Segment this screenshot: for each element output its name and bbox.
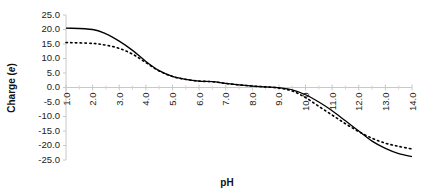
- y-tick-label: 5.0: [47, 67, 60, 78]
- x-tick-label: 5.0: [167, 93, 178, 106]
- x-tick-label: 1.0: [61, 93, 72, 106]
- y-axis: 25.020.015.010.05.00.0-5.0-10.0-15.0-20.…: [38, 9, 66, 165]
- y-tick-label: -25.0: [38, 154, 60, 165]
- y-tick-label: 10.0: [42, 52, 61, 63]
- x-tick-label: 13.0: [380, 93, 391, 112]
- y-axis-title-suffix: ): [6, 63, 17, 66]
- y-axis-title: Charge (e): [6, 63, 17, 112]
- x-tick-label: 8.0: [247, 93, 258, 106]
- x-tick-label: 2.0: [87, 93, 98, 106]
- y-tick-label: -10.0: [38, 110, 60, 121]
- y-tick-label: -15.0: [38, 125, 60, 136]
- series-layer: [66, 28, 412, 156]
- x-tick-label: 9.0: [273, 93, 284, 106]
- x-tick-label: 7.0: [220, 93, 231, 106]
- y-tick-label: 25.0: [42, 9, 61, 20]
- y-tick-label: -5.0: [44, 96, 60, 107]
- x-tick-label: 14.0: [407, 93, 418, 112]
- x-axis-title: pH: [220, 177, 233, 188]
- charge-vs-ph-chart: 25.020.015.010.05.00.0-5.0-10.0-15.0-20.…: [0, 0, 428, 192]
- y-tick-label: -20.0: [38, 139, 60, 150]
- x-tick-label: 12.0: [353, 93, 364, 112]
- y-tick-label: 20.0: [42, 23, 61, 34]
- x-tick-label: 6.0: [194, 93, 205, 106]
- x-tick-label: 4.0: [140, 93, 151, 106]
- y-tick-label: 15.0: [42, 38, 61, 49]
- x-axis: 1.02.03.04.05.06.07.08.09.010.011.012.01…: [61, 85, 418, 112]
- y-tick-label: 0.0: [47, 81, 60, 92]
- y-axis-title-prefix: Charge (: [6, 72, 17, 113]
- x-tick-label: 3.0: [114, 93, 125, 106]
